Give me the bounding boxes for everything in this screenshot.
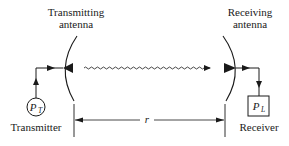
transmitter-feed-line [36,68,63,98]
transmitter-power-node: P T [27,98,45,116]
receiver-label: Receiver [239,121,278,133]
distance-left-arrow-icon [75,118,83,123]
propagating-wave [84,67,210,69]
transmitting-antenna-label-line1: Transmitting [48,6,105,18]
receiver-right-arrow-icon [242,65,250,71]
transmitting-antenna-label: Transmitting antenna [48,6,105,30]
receiving-antenna-label-line1: Receiving [228,6,273,18]
transmit-power-symbol: P [29,101,37,113]
transmitter-up-arrow-icon [33,78,39,85]
received-power-subscript: L [260,105,265,114]
received-power-symbol: P [252,100,260,112]
receiving-antenna-label-line2: antenna [233,18,267,30]
radio-link-diagram: Transmitting antenna Receiving antenna P… [0,0,289,146]
transmitting-antenna-label-line2: antenna [59,18,93,30]
receiving-antenna-label: Receiving antenna [228,6,273,30]
receiver-down-arrow-icon [256,81,262,88]
distance-right-arrow-icon [216,118,224,123]
distance-dimension: r [74,104,225,137]
distance-label: r [145,113,150,125]
transmitter-right-arrow-icon [47,65,55,71]
transmitter-label: Transmitter [11,121,62,133]
receiving-antenna-feed-icon [224,63,236,73]
transmitting-antenna-feed-icon [63,63,73,73]
receiver-feed-line [236,68,259,96]
receiver-power-node: P L [248,96,269,116]
